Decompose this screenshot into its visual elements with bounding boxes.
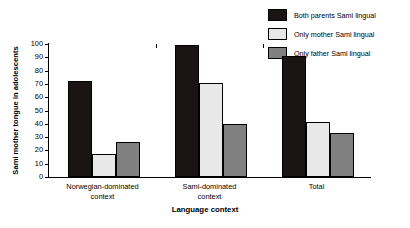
y-axis-tick-label: 90 bbox=[35, 52, 43, 61]
y-axis-tick-mark bbox=[45, 137, 49, 138]
bar bbox=[92, 154, 116, 177]
y-axis-tick-mark bbox=[45, 111, 49, 112]
x-axis-category-label: Norwegian-dominated context bbox=[49, 182, 156, 201]
bar bbox=[199, 83, 223, 177]
y-axis-tick-label: 10 bbox=[35, 159, 43, 168]
legend-label-both-parents: Both parents Sami lingual bbox=[294, 11, 376, 20]
x-axis-category-label: Sami-dominated context bbox=[156, 182, 263, 201]
x-axis-category-label: Total bbox=[263, 182, 370, 192]
y-axis-tick-mark bbox=[45, 57, 49, 58]
x-axis-tick-mark bbox=[263, 44, 264, 48]
x-axis-tick-mark bbox=[156, 44, 157, 48]
y-axis-tick-mark bbox=[45, 44, 49, 45]
bar-chart: Both parents Sami lingual Only mother Sa… bbox=[0, 0, 410, 228]
bar bbox=[330, 133, 354, 177]
legend-label-only-mother: Only mother Sami lingual bbox=[294, 30, 374, 39]
y-axis-tick-label: 20 bbox=[35, 145, 43, 154]
bar bbox=[282, 56, 306, 177]
x-axis-title: Language context bbox=[0, 205, 410, 215]
legend-item-both-parents: Both parents Sami lingual bbox=[268, 6, 408, 24]
y-axis-tick-mark bbox=[45, 71, 49, 72]
legend-swatch-only-mother bbox=[268, 28, 287, 40]
y-axis-tick-label: 50 bbox=[35, 106, 43, 115]
y-axis-tick-mark bbox=[45, 84, 49, 85]
y-axis-tick-mark bbox=[45, 97, 49, 98]
bar bbox=[68, 81, 92, 177]
legend-item-only-mother: Only mother Sami lingual bbox=[268, 25, 408, 43]
y-axis-tick-label: 40 bbox=[35, 119, 43, 128]
y-axis-tick-label: 30 bbox=[35, 132, 43, 141]
y-axis-tick-label: 0 bbox=[39, 172, 43, 181]
y-axis-tick-label: 80 bbox=[35, 66, 43, 75]
bar bbox=[175, 45, 199, 177]
y-axis-title: Sami mother tongue in adolescents bbox=[9, 44, 23, 177]
x-axis-line bbox=[48, 177, 371, 178]
y-axis-tick-mark bbox=[45, 177, 49, 178]
y-axis-tick-label: 70 bbox=[35, 79, 43, 88]
y-axis-tick-mark bbox=[45, 164, 49, 165]
plot-area: 0102030405060708090100 bbox=[49, 44, 370, 177]
y-axis-tick-label: 100 bbox=[31, 39, 43, 48]
y-axis-tick-mark bbox=[45, 150, 49, 151]
bar bbox=[223, 124, 247, 177]
y-axis-tick-label: 60 bbox=[35, 92, 43, 101]
bar bbox=[116, 142, 140, 177]
legend-swatch-both-parents bbox=[268, 9, 287, 21]
y-axis-tick-mark bbox=[45, 124, 49, 125]
bar bbox=[306, 122, 330, 177]
